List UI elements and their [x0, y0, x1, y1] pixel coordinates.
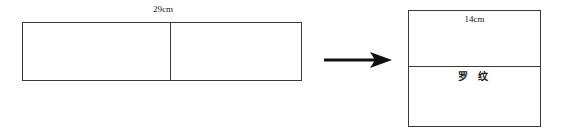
- right-figure-group: 14cm 罗 纹: [0, 0, 563, 135]
- ribbing-label: 罗 纹: [408, 71, 541, 83]
- horizontal-split-line: [408, 66, 541, 67]
- height-label-14cm: 14cm: [408, 14, 541, 25]
- folded-panel-rectangle: [408, 10, 541, 127]
- diagram-canvas: 29cm 14cm 罗 纹: [0, 0, 563, 135]
